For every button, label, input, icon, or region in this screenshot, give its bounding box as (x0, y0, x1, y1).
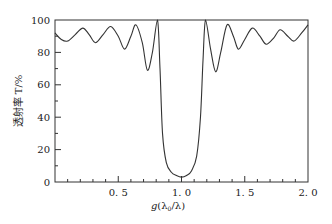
chart: 0. 51. 01. 52. 0020406080100 g(λ0/λ) 透射率… (0, 0, 332, 224)
y-tick-label: 60 (37, 79, 50, 90)
x-tick-label: 1. 0 (172, 187, 191, 198)
axis-ticks (55, 36, 295, 182)
plot-frame (55, 20, 308, 182)
x-tick-label: 2. 0 (298, 187, 317, 198)
y-tick-label: 80 (37, 47, 50, 58)
x-tick-label: 1. 5 (235, 187, 254, 198)
y-tick-label: 20 (37, 144, 50, 155)
y-axis-title: 透射率 T/% (12, 75, 24, 128)
y-tick-label: 40 (37, 112, 50, 123)
tick-labels: 0. 51. 01. 52. 0020406080100 (31, 15, 318, 199)
x-tick-label: 0. 5 (109, 187, 128, 198)
y-tick-label: 100 (31, 15, 50, 26)
transmittance-curve (55, 20, 308, 177)
x-axis-title: g(λ0/λ) (151, 200, 185, 212)
y-tick-label: 0 (44, 177, 50, 188)
